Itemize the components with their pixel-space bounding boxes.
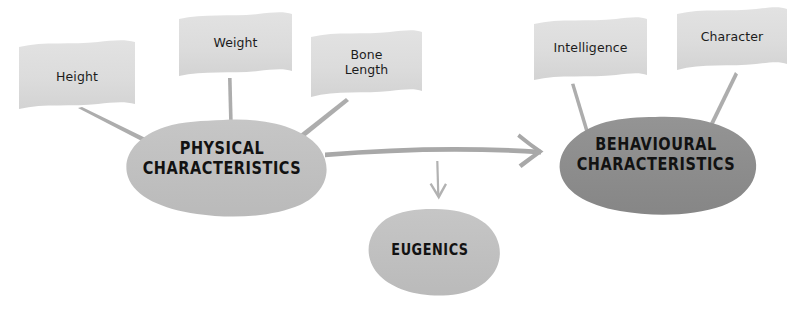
node-eugenics-shape[interactable] — [369, 209, 500, 296]
arrow-physical-to-behavioural-shaft — [325, 147, 541, 157]
diagram-canvas: Height Weight Bone Length Intelligence C… — [0, 0, 800, 318]
connector-intelligence-to-behavioural — [571, 83, 590, 135]
flag-height-shape[interactable] — [19, 40, 135, 109]
flag-bonelength-shape[interactable] — [311, 30, 422, 97]
node-physical-shape[interactable] — [126, 120, 326, 217]
connector-bonelength-to-physical — [299, 98, 349, 139]
arrow-group — [325, 134, 544, 200]
connector-character-to-behavioural — [709, 72, 738, 128]
arrow-physical-to-eugenics-shaft — [436, 161, 439, 196]
node-behavioural-shape[interactable] — [560, 117, 757, 215]
diagram-vector-layer — [0, 0, 800, 318]
flag-intelligence-shape[interactable] — [534, 17, 647, 80]
flag-character-shape[interactable] — [677, 7, 787, 70]
flag-weight-shape[interactable] — [179, 12, 292, 76]
node-group — [126, 117, 756, 296]
flag-group — [19, 7, 787, 109]
